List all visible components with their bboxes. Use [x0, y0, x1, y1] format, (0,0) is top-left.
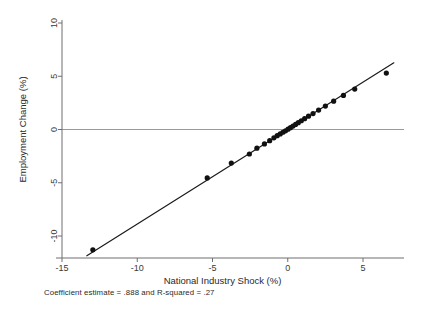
data-point [267, 138, 272, 143]
data-point [205, 175, 210, 180]
data-point [254, 146, 259, 151]
x-axis-title: National Industry Shock (%) [164, 275, 282, 286]
x-tick-label: 5 [360, 263, 365, 273]
chart-root: -10-50510-15-10-505National Industry Sho… [17, 18, 404, 286]
y-tick-label: 5 [49, 74, 59, 79]
scatter-plot-figure: -10-50510-15-10-505National Industry Sho… [0, 0, 426, 314]
data-point [323, 103, 328, 108]
data-point [331, 99, 336, 104]
y-axis-title: Employment Change (%) [17, 76, 28, 182]
data-point [352, 86, 357, 91]
plot-canvas: -10-50510-15-10-505National Industry Sho… [0, 0, 426, 314]
x-tick-label: 0 [285, 263, 290, 273]
x-tick-label: -10 [131, 263, 144, 273]
data-point [262, 141, 267, 146]
data-point [310, 111, 315, 116]
data-point [384, 70, 389, 75]
y-tick-label: 10 [49, 18, 59, 28]
data-point [90, 247, 95, 252]
data-point [341, 93, 346, 98]
y-tick-label: -5 [49, 179, 59, 187]
chart-caption: Coefficient estimate = .888 and R-square… [44, 288, 215, 297]
regression-fit-line [87, 63, 394, 256]
data-point [316, 108, 321, 113]
x-tick-label: -5 [208, 263, 216, 273]
x-tick-label: -15 [55, 263, 68, 273]
data-point [306, 114, 311, 119]
data-point [247, 151, 252, 156]
data-point [229, 160, 234, 165]
y-tick-label: -10 [49, 229, 59, 242]
y-tick-label: 0 [49, 127, 59, 132]
